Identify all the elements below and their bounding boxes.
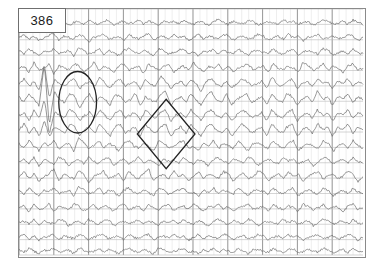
diamond-annotation[interactable] xyxy=(137,99,195,168)
eeg-annotation-layer[interactable] xyxy=(19,9,365,257)
eeg-page: 386 xyxy=(0,0,376,268)
eeg-chart-frame xyxy=(18,8,366,258)
ellipse-annotation[interactable] xyxy=(59,71,97,133)
page-number-value: 386 xyxy=(30,13,53,28)
page-number-label: 386 xyxy=(18,8,66,33)
